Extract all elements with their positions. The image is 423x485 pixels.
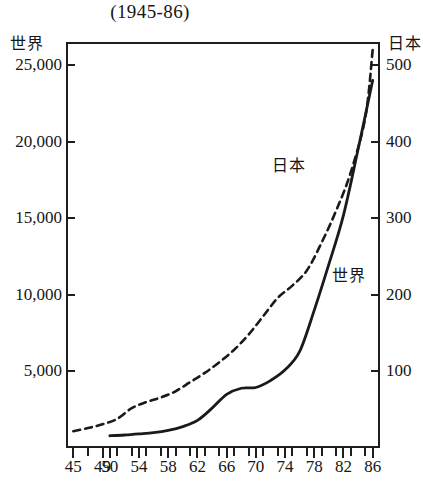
x-axis-tick (277, 448, 279, 456)
x-axis-tick-label: 50 (101, 458, 118, 475)
left-axis-tick (66, 141, 75, 143)
right-axis-tick-label: 300 (386, 209, 412, 226)
x-axis-tick (291, 448, 293, 456)
right-axis-unit-label: 日本 (388, 30, 422, 54)
right-axis-tick (371, 64, 380, 66)
x-axis-tick (145, 448, 147, 456)
right-axis-tick-label: 400 (386, 133, 412, 150)
left-axis-tick-label: 5,000 (24, 362, 62, 379)
plot-area-frame (66, 42, 380, 448)
x-axis-tick-label: 62 (189, 458, 206, 475)
right-axis-tick-label: 500 (386, 56, 412, 73)
x-axis-tick (160, 448, 162, 456)
series-annotation-japan: 日本 (272, 152, 306, 176)
series-annotation-world: 世界 (332, 262, 366, 286)
left-axis-tick-label: 25,000 (15, 56, 62, 73)
left-axis-unit-label: 世界 (10, 30, 44, 54)
x-axis-tick-label: 45 (65, 458, 82, 475)
right-axis-tick-label: 200 (386, 286, 412, 303)
x-axis-tick (306, 448, 308, 456)
x-axis-tick (364, 448, 366, 456)
x-axis-tick (204, 448, 206, 456)
x-axis-tick (335, 448, 337, 456)
x-axis-tick (233, 448, 235, 456)
x-axis-tick-label: 70 (247, 458, 264, 475)
left-axis-tick (66, 64, 75, 66)
x-axis-tick-label: 86 (364, 458, 381, 475)
left-axis-tick-label: 20,000 (15, 133, 62, 150)
right-axis-tick-label: 100 (386, 362, 412, 379)
x-axis-tick (350, 448, 352, 456)
right-axis-tick (371, 294, 380, 296)
x-axis-tick-label: 58 (160, 458, 177, 475)
x-axis-tick (189, 448, 191, 456)
left-axis-tick (66, 370, 75, 372)
x-axis-tick (87, 448, 89, 456)
chart-title: (1945-86) (0, 1, 300, 23)
x-axis-tick (131, 448, 133, 456)
x-axis-tick-label: 66 (218, 458, 235, 475)
x-axis-tick (248, 448, 250, 456)
x-axis-tick-label: 78 (306, 458, 323, 475)
x-axis-tick-label: 82 (335, 458, 352, 475)
x-axis-tick (262, 448, 264, 456)
right-axis-tick (371, 141, 380, 143)
right-axis-tick (371, 370, 380, 372)
x-axis-tick-label: 74 (277, 458, 294, 475)
x-axis-tick-label: 54 (131, 458, 148, 475)
x-axis-tick (175, 448, 177, 456)
right-axis-tick (371, 217, 380, 219)
x-axis-tick (116, 448, 118, 456)
x-axis-tick (321, 448, 323, 456)
chart-figure: (1945-86) 世界 日本 5,00010,00015,00020,0002… (0, 0, 423, 485)
left-axis-tick-label: 15,000 (15, 209, 62, 226)
x-axis-tick (218, 448, 220, 456)
left-axis-tick (66, 217, 75, 219)
left-axis-tick (66, 294, 75, 296)
left-axis-tick-label: 10,000 (15, 286, 62, 303)
